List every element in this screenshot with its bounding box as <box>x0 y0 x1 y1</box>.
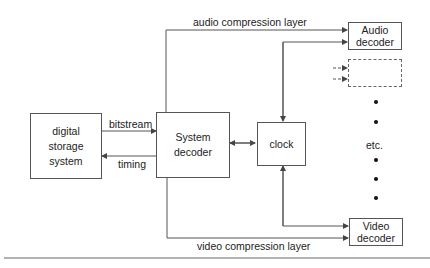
node-label: decoder <box>356 36 394 48</box>
placeholder-decoder-node <box>348 59 402 87</box>
edge-label-audio-compression-layer: audio compression layer <box>193 16 307 28</box>
edge-label-bitstream: bitstream <box>109 118 152 130</box>
node-label: system <box>49 154 82 169</box>
clock-node: clock <box>257 122 306 166</box>
node-label: digital <box>52 124 79 139</box>
edge-label-timing: timing <box>118 158 146 170</box>
ellipsis-dot <box>374 100 378 104</box>
audio-decoder-node: Audio decoder <box>348 22 402 50</box>
node-label: storage <box>48 139 83 154</box>
digital-storage-system-node: digital storage system <box>30 113 102 179</box>
ellipsis-dot <box>374 158 378 162</box>
node-label: Video <box>363 220 390 232</box>
ellipsis-label: etc. <box>366 139 383 151</box>
ellipsis-dot <box>374 177 378 181</box>
node-label: decoder <box>357 232 395 244</box>
node-label: decoder <box>174 145 212 160</box>
video-decoder-node: Video decoder <box>349 218 403 246</box>
node-label: clock <box>270 137 294 152</box>
node-label: System <box>175 130 210 145</box>
ellipsis-dot <box>374 120 378 124</box>
system-decoder-node: System decoder <box>156 112 230 178</box>
edge-label-video-compression-layer: video compression layer <box>197 240 310 252</box>
ellipsis-dot <box>374 196 378 200</box>
node-label: Audio <box>362 24 389 36</box>
